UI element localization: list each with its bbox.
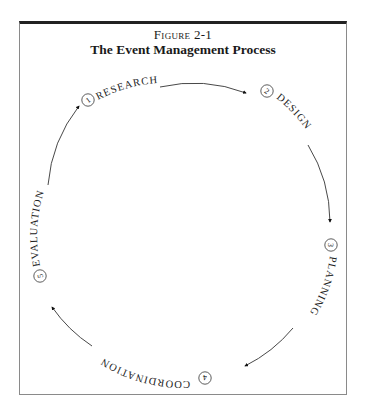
step-number: 4	[203, 373, 208, 382]
process-cycle-diagram: 1 RESEARCH 2 DESIGN 3 PLANNING 4 COORDIN…	[0, 0, 365, 410]
step-number: 5	[36, 273, 46, 279]
arrow-planning-to-coordination	[245, 328, 293, 366]
step-label: PLANNING	[307, 256, 338, 319]
step-label: DESIGN	[275, 91, 314, 131]
step-number: 3	[326, 243, 335, 248]
step-evaluation: 5 EVALUATION	[28, 189, 46, 283]
step-number: 2	[262, 87, 270, 97]
arrow-coordination-to-evaluation	[52, 307, 92, 346]
step-planning: 3 PLANNING	[307, 239, 338, 318]
arrow-evaluation-to-research	[48, 106, 79, 185]
arrow-research-to-design	[160, 83, 246, 93]
arrow-design-to-planning	[308, 145, 330, 222]
step-design: 2 DESIGN	[261, 85, 314, 132]
step-coordination: 4 COORDINATION	[98, 356, 211, 390]
step-label: RESEARCH	[94, 74, 158, 102]
step-label: COORDINATION	[98, 356, 190, 390]
step-label: EVALUATION	[28, 189, 46, 268]
step-number: 1	[84, 96, 92, 106]
step-research: 1 RESEARCH	[82, 74, 159, 106]
